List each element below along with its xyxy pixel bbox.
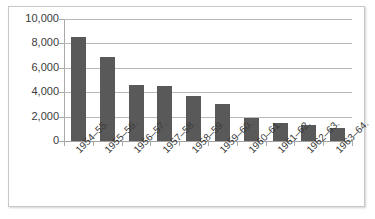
value-axis-label: 10,000 — [13, 13, 59, 24]
value-axis-label: 6,000 — [13, 62, 59, 73]
value-axis-tick — [59, 68, 64, 69]
value-axis-tick — [59, 117, 64, 118]
value-axis-label: 0 — [13, 135, 59, 146]
bar — [71, 37, 86, 141]
value-axis-label: 2,000 — [13, 111, 59, 122]
value-axis-label: 4,000 — [13, 86, 59, 97]
chart-frame: 02,0004,0006,0008,00010,000 1954–55.1955… — [8, 6, 365, 207]
value-axis-tick — [59, 92, 64, 93]
value-axis-tick — [59, 43, 64, 44]
gridline-8000 — [64, 43, 352, 44]
value-axis-tick — [59, 19, 64, 20]
gridline-10000 — [64, 19, 352, 20]
category-axis-tick — [64, 141, 65, 146]
value-axis-tick — [59, 141, 64, 142]
value-axis-label: 8,000 — [13, 37, 59, 48]
value-axis-labels: 02,0004,0006,0008,00010,000 — [9, 7, 59, 206]
